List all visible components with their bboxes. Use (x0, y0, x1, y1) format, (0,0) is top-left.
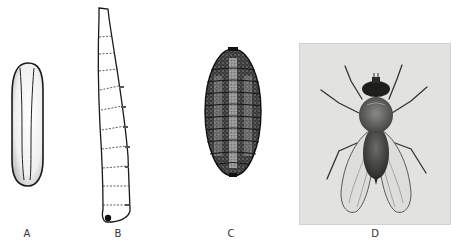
panel-label-a: A (24, 228, 31, 239)
panel-d-photo (299, 43, 451, 225)
panel-b-larva (94, 6, 144, 226)
panel-label-c: C (228, 228, 235, 239)
panel-c-pupa (202, 46, 264, 180)
panel-label-d: D (371, 228, 379, 239)
larva-illustration (94, 6, 144, 226)
pupa-illustration (202, 46, 264, 180)
adult-fly-photo (299, 43, 451, 225)
panel-label-b: B (115, 228, 122, 239)
panel-a-egg (8, 60, 48, 190)
egg-illustration (8, 60, 48, 190)
spiracle-dot (105, 215, 111, 221)
